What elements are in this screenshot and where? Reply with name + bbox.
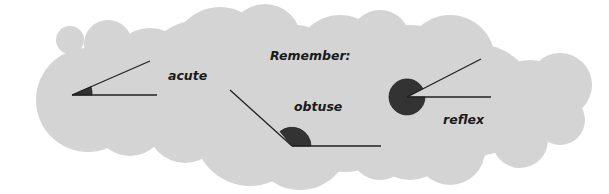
remember-heading: Remember: (270, 48, 351, 63)
angle-types-diagram: acute obtuse reflex Remember: (0, 0, 609, 194)
reflex-label: reflex (443, 112, 485, 127)
diagram-canvas: acute obtuse reflex Remember: (0, 0, 609, 194)
acute-label: acute (168, 68, 207, 83)
cloud-shape (36, 4, 592, 190)
obtuse-label: obtuse (294, 99, 342, 114)
